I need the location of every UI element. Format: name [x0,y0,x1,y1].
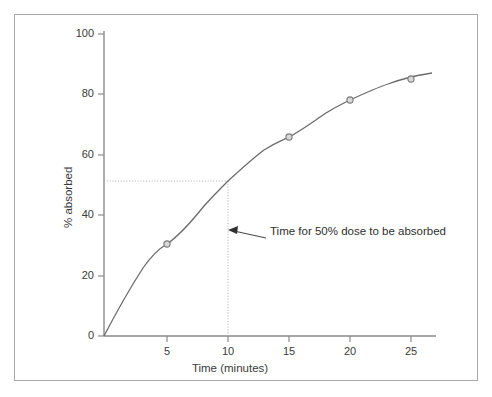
y-tick-label-80: 80 [68,87,94,99]
y-tick-label-0: 0 [68,329,94,341]
data-point-25min [408,76,414,82]
data-point-markers [164,76,414,247]
y-tick-label-100: 100 [68,27,94,39]
y-axis-ticks [98,34,104,336]
data-point-20min [347,97,353,103]
x-tick-label-10: 10 [208,345,248,357]
figure-container: 100 80 60 40 20 0 5 10 15 20 25 Time (mi… [0,0,492,397]
y-axis-title: % absorbed [62,167,74,228]
y-tick-label-20: 20 [68,269,94,281]
x-tick-label-25: 25 [391,345,431,357]
data-point-15min [286,134,292,140]
data-point-5min [164,241,170,247]
x-axis-title: Time (minutes) [170,362,290,374]
y-tick-label-60: 60 [68,148,94,160]
absorption-curve [104,73,432,336]
x-tick-label-5: 5 [147,345,187,357]
annotation-arrow [228,226,266,238]
x-tick-label-20: 20 [330,345,370,357]
annotation-text: Time for 50% dose to be absorbed [270,225,446,237]
x-tick-label-15: 15 [269,345,309,357]
x-axis-ticks [167,336,411,342]
